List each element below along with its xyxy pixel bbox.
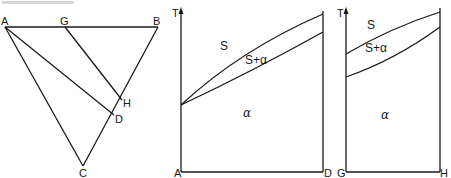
axis-arrow-icon xyxy=(179,7,184,14)
solidus-curve xyxy=(346,27,440,77)
point-label-g: G xyxy=(60,15,69,27)
section-gh-diagram: T G H S S+α α xyxy=(337,7,448,178)
vertex-label-a: A xyxy=(1,15,9,27)
point-label-h: H xyxy=(123,97,131,109)
axis-label-t: T xyxy=(337,7,344,19)
axis-arrow-icon xyxy=(344,7,349,14)
edge-bc xyxy=(83,27,158,166)
section-line-gh xyxy=(65,27,122,100)
region-label-solid: α xyxy=(381,108,389,122)
section-ad-diagram: T A D S S+α α xyxy=(172,7,332,178)
edge-ca xyxy=(5,27,83,166)
section-line-ad xyxy=(5,27,114,115)
vertex-label-c: C xyxy=(79,167,87,178)
axis-label-a: A xyxy=(174,167,182,178)
axis-label-d: D xyxy=(324,167,332,178)
point-label-d: D xyxy=(115,113,123,125)
region-label-solid: α xyxy=(243,106,251,120)
axis-label-h: H xyxy=(440,167,448,178)
region-label-two-phase: S+α xyxy=(245,53,267,67)
region-label-liquid: S xyxy=(367,18,375,32)
axis-label-g: G xyxy=(337,167,346,178)
cropped-caption-remnant xyxy=(2,1,74,4)
region-label-liquid: S xyxy=(220,39,228,53)
solidus-curve xyxy=(181,32,323,105)
region-label-two-phase: S+α xyxy=(365,41,387,55)
liquidus-curve xyxy=(346,12,440,54)
axis-label-t: T xyxy=(172,7,179,19)
vertex-label-b: B xyxy=(153,15,160,27)
ternary-phase-diagram-figure: A B C G H D T A D S S+α α T G H S S xyxy=(0,0,451,178)
ternary-triangle: A B C G H D xyxy=(1,15,160,178)
